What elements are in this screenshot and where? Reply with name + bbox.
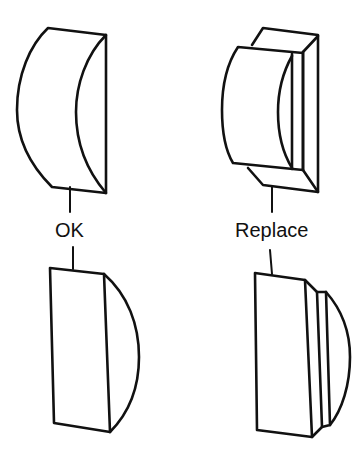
replace-lens-side — [255, 250, 350, 437]
ok-lens-perspective — [17, 28, 106, 212]
replace-label: Replace — [235, 220, 308, 240]
ok-lens-side — [50, 247, 139, 432]
replace-leader-bottom — [270, 250, 272, 274]
ok-label: OK — [55, 220, 84, 240]
replace-lens-perspective — [222, 28, 318, 212]
